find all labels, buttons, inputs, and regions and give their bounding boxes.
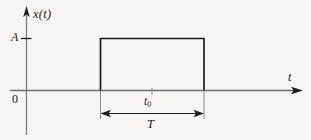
amplitude-label: A — [11, 31, 18, 43]
y-axis-label: x(t) — [33, 8, 52, 21]
pulse-center-label-subscript: 0 — [147, 100, 151, 109]
pulse-width-label: T — [147, 118, 154, 131]
figure-canvas — [0, 0, 311, 140]
origin-label: 0 — [12, 93, 18, 105]
x-axis-label: t — [288, 71, 291, 83]
pulse-center-label: t0 — [144, 96, 151, 109]
pulse-waveform — [101, 39, 205, 91]
pulse-signal-figure: x(t) A 0 t t0 T — [0, 0, 311, 140]
